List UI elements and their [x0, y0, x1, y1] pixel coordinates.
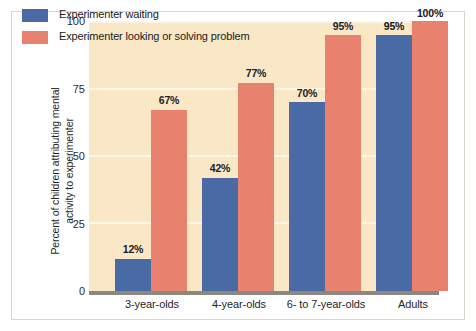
bar-looking-adults[interactable] — [412, 21, 448, 291]
bar-chart-figure: Percent of children attributing mental a… — [0, 0, 476, 331]
legend-label-experimenter-waiting: Experimenter waiting — [59, 8, 159, 22]
bar-waiting-adults[interactable] — [376, 35, 412, 292]
bar-waiting-6-to-7-year-olds[interactable] — [289, 102, 325, 291]
bar-looking-3-year-olds[interactable] — [151, 110, 187, 291]
legend-swatch-blue-icon — [22, 9, 48, 22]
bar-value-waiting-4-year-olds: 42% — [190, 162, 250, 174]
legend-item-experimenter-looking[interactable]: Experimenter looking or solving problem — [22, 30, 252, 44]
bar-waiting-3-year-olds[interactable] — [115, 259, 151, 291]
y-tick-50: 50 — [51, 150, 85, 162]
bar-value-waiting-adults: 95% — [364, 20, 424, 32]
bar-waiting-4-year-olds[interactable] — [202, 178, 238, 291]
y-tick-75: 75 — [51, 83, 85, 95]
bar-value-waiting-3-year-olds: 12% — [103, 243, 163, 255]
legend-label-experimenter-looking: Experimenter looking or solving problem — [59, 30, 249, 44]
plot-area: 12% 67% 42% 77% 70% 95% 95% 100% — [89, 21, 435, 291]
bar-value-looking-3-year-olds: 67% — [139, 94, 199, 106]
bar-looking-4-year-olds[interactable] — [238, 83, 274, 291]
legend: Experimenter waiting Experimenter lookin… — [22, 8, 252, 52]
bar-value-looking-adults: 100% — [400, 7, 460, 19]
x-axis-line — [89, 291, 439, 295]
bar-value-waiting-6-to-7-year-olds: 70% — [277, 87, 337, 99]
y-axis-ticks: 100 75 50 25 0 — [45, 21, 85, 291]
legend-item-experimenter-waiting[interactable]: Experimenter waiting — [22, 8, 252, 22]
x-tick-adults: Adults — [358, 298, 468, 310]
bar-looking-6-to-7-year-olds[interactable] — [325, 35, 361, 292]
y-tick-25: 25 — [51, 218, 85, 230]
bar-value-looking-4-year-olds: 77% — [226, 67, 286, 79]
x-axis-labels: 3-year-olds 4-year-olds 6- to 7-year-old… — [89, 298, 439, 318]
y-tick-0: 0 — [51, 285, 85, 297]
legend-swatch-red-icon — [22, 31, 48, 44]
